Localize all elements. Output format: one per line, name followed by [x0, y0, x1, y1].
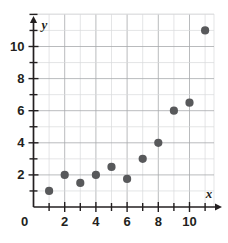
x-axis-arrowhead — [215, 203, 222, 210]
tick-labels: 2468102468100 — [10, 39, 197, 229]
data-point — [61, 171, 69, 179]
origin-tick-label: 0 — [21, 214, 28, 229]
x-tick-label: 6 — [123, 214, 130, 229]
data-point — [45, 187, 53, 195]
data-point — [185, 99, 193, 107]
data-point — [170, 107, 178, 115]
y-tick-label: 10 — [10, 39, 24, 54]
tick-marks — [29, 14, 206, 212]
plot-canvas: 2468102468100 xy — [0, 0, 228, 243]
data-point — [107, 163, 115, 171]
x-tick-label: 2 — [61, 214, 68, 229]
y-axis-arrowhead — [30, 16, 37, 23]
data-point — [154, 139, 162, 147]
data-point — [92, 171, 100, 179]
x-tick-label: 8 — [155, 214, 162, 229]
y-axis-label: y — [40, 17, 48, 32]
data-point — [76, 179, 84, 187]
y-tick-label: 4 — [17, 135, 25, 150]
y-tick-label: 6 — [17, 103, 24, 118]
x-tick-label: 10 — [182, 214, 196, 229]
scatter-plot-figure: 2468102468100 xy — [0, 0, 228, 243]
data-point — [201, 26, 209, 34]
x-tick-label: 4 — [92, 214, 100, 229]
data-point — [139, 155, 147, 163]
x-axis-label: x — [205, 186, 213, 201]
y-tick-label: 8 — [17, 71, 24, 86]
data-point — [123, 175, 131, 183]
y-tick-label: 2 — [17, 167, 24, 182]
